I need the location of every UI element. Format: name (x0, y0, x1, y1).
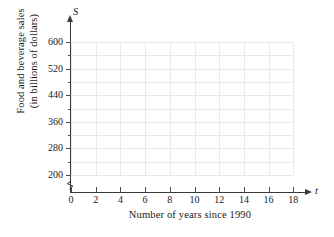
x-tick-major (170, 187, 171, 192)
y-tick-label: 280 (48, 143, 63, 153)
gridline-horizontal (71, 42, 293, 43)
x-tick-label: 0 (69, 195, 74, 205)
x-tick-label: 14 (239, 195, 249, 205)
gridline-vertical (293, 42, 294, 175)
gridline-horizontal (71, 122, 293, 123)
gridline-horizontal (71, 135, 293, 136)
gridline-horizontal (71, 109, 293, 110)
y-tick-minor (68, 55, 71, 56)
y-tick-label: 360 (48, 117, 63, 127)
x-tick-label: 18 (288, 195, 298, 205)
y-tick-major (66, 95, 71, 96)
y-tick-minor (68, 162, 71, 163)
x-axis-title-text: Number of years since 1990 (83, 209, 251, 220)
x-tick-label: 16 (264, 195, 274, 205)
x-tick-major (293, 187, 294, 192)
y-tick-major (66, 175, 71, 176)
gridline-horizontal (71, 95, 293, 96)
x-tick-label: 12 (214, 195, 224, 205)
x-tick-major (219, 187, 220, 192)
y-tick-major (66, 148, 71, 149)
x-tick-major (71, 187, 72, 192)
x-tick-label: 6 (143, 195, 148, 205)
x-tick-major (120, 187, 121, 192)
x-tick-label: 4 (118, 195, 123, 205)
x-tick-major (145, 187, 146, 192)
y-tick-minor (68, 82, 71, 83)
y-axis-title-line-2: (in billions of dollars) (28, 14, 41, 108)
y-tick-label: 600 (48, 37, 63, 47)
x-tick-label: 10 (190, 195, 200, 205)
y-tick-label: 520 (48, 64, 63, 74)
y-tick-major (66, 42, 71, 43)
x-tick-major (244, 187, 245, 192)
y-axis-variable-label: S (73, 7, 78, 18)
gridline-horizontal (71, 175, 293, 176)
chart-figure: S t 200280360440520600 024681012141618 N… (0, 0, 334, 237)
y-axis-title-line-1: Food and beverage sales (15, 8, 28, 113)
x-tick-major (269, 187, 270, 192)
y-axis-title: Food and beverage sales (in billions of … (15, 0, 41, 137)
x-axis-title: Number of years since 1990 (0, 209, 334, 220)
gridline-horizontal (71, 82, 293, 83)
x-tick-major (96, 187, 97, 192)
y-tick-minor (68, 109, 71, 110)
x-tick-major (195, 187, 196, 192)
x-axis-arrow-icon (305, 189, 312, 195)
gridline-horizontal (71, 162, 293, 163)
x-axis-variable-label: t (315, 186, 318, 197)
x-tick-label: 2 (93, 195, 98, 205)
y-axis-line (70, 22, 71, 192)
gridline-horizontal (71, 55, 293, 56)
gridline-horizontal (71, 148, 293, 149)
y-tick-major (66, 69, 71, 70)
gridline-horizontal (71, 69, 293, 70)
y-tick-label: 440 (48, 90, 63, 100)
y-tick-label: 200 (48, 170, 63, 180)
y-tick-major (66, 122, 71, 123)
y-tick-minor (68, 135, 71, 136)
x-tick-label: 8 (167, 195, 172, 205)
x-axis-line (70, 192, 307, 193)
